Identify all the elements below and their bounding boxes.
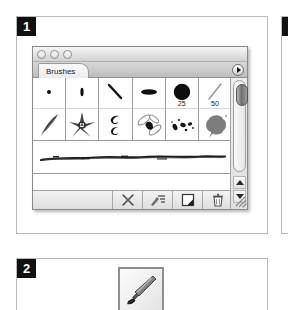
scroll-up-button[interactable]	[233, 176, 246, 189]
brush-hard-round-1[interactable]	[33, 78, 66, 109]
brush-splat-blob[interactable]	[199, 109, 232, 140]
toolbar-spacer	[33, 191, 112, 209]
resize-grip[interactable]	[233, 194, 247, 208]
x-icon	[121, 193, 135, 207]
scrollbar-thumb[interactable]	[236, 84, 248, 106]
brush-spatter-specks[interactable]	[166, 109, 199, 140]
brush-slash-stroke[interactable]	[99, 78, 132, 109]
brush-tool-button[interactable]	[118, 267, 164, 310]
brush-tool-icon	[122, 271, 160, 309]
panel-brushes-palette: 1 Brushes	[16, 16, 268, 234]
ellipse-icon	[134, 79, 164, 107]
new-brush-button[interactable]	[172, 191, 202, 209]
resize-grip-icon	[233, 194, 247, 208]
brush-hard-round-3[interactable]	[66, 78, 99, 109]
dot-tall-icon	[68, 79, 96, 107]
window-title-bar	[33, 47, 247, 62]
brush-preset-grid: 25 50	[33, 78, 232, 141]
brush-feather[interactable]	[33, 109, 66, 140]
diagonal-short-icon	[100, 79, 130, 107]
dragonfly-icon	[133, 110, 165, 140]
brush-comma[interactable]	[99, 109, 132, 140]
splat-icon	[199, 110, 231, 140]
brush-starburst[interactable]	[66, 109, 99, 140]
zoom-button[interactable]	[63, 50, 72, 59]
brushes-palette-window: Brushes	[32, 46, 248, 210]
trash-icon	[211, 193, 225, 207]
starburst-icon	[67, 110, 97, 140]
scrollbar-track[interactable]	[233, 80, 246, 172]
brush-diagonal-50[interactable]: 50	[199, 78, 232, 109]
specks-icon	[166, 110, 198, 140]
brush-size-label: 50	[199, 100, 231, 108]
stroke-preview-graphic	[33, 141, 232, 174]
minimize-button[interactable]	[50, 50, 59, 59]
brush-options-button[interactable]	[142, 191, 172, 209]
new-document-icon	[181, 193, 195, 207]
tab-brushes[interactable]: Brushes	[38, 63, 89, 78]
vertical-scrollbar[interactable]	[230, 78, 247, 209]
brush-dragonfly[interactable]	[133, 109, 166, 140]
panel-adjacent-sliver	[281, 16, 288, 234]
palette-tab-strip: Brushes	[33, 62, 247, 78]
comma-icon	[100, 110, 130, 140]
feather-icon	[34, 110, 64, 140]
clear-brush-button[interactable]	[112, 191, 142, 209]
brush-flat-oval[interactable]	[133, 78, 166, 109]
palette-toolbar	[33, 190, 232, 209]
figure-page: 1 Brushes	[0, 0, 288, 310]
delete-brush-button[interactable]	[202, 191, 232, 209]
panel-badge-2: 2	[17, 259, 36, 278]
triangle-right-icon	[237, 67, 241, 73]
panel-badge-3	[282, 17, 288, 36]
scroll-up-arrow-icon	[236, 180, 244, 185]
palette-menu-button[interactable]	[232, 64, 244, 76]
brush-soft-round-25[interactable]: 25	[166, 78, 199, 109]
palette-body: 25 50	[33, 78, 247, 209]
panel-badge-1: 1	[17, 17, 36, 36]
dot-small-icon	[35, 79, 63, 107]
close-button[interactable]	[37, 50, 46, 59]
brush-sliders-icon	[149, 193, 167, 207]
brush-stroke-preview	[33, 141, 232, 174]
brush-size-label: 25	[166, 100, 198, 108]
panel-brush-tool: 2	[16, 258, 268, 310]
tab-brushes-label: Brushes	[46, 67, 75, 76]
